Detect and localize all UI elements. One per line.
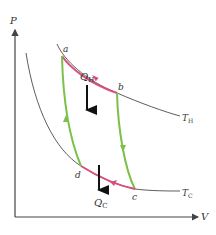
isotherm-th-label: TH (182, 113, 193, 124)
process-b-c (117, 93, 135, 189)
process-a-b (62, 56, 117, 93)
qc-label: QC (94, 197, 108, 210)
isotherm-tc-label: TC (182, 188, 193, 199)
point-a-label: a (63, 44, 68, 54)
y-axis-label: P (9, 15, 17, 26)
point-c-label: c (132, 192, 137, 202)
point-d-label: d (75, 170, 81, 180)
qh-label: QH (80, 71, 94, 84)
point-b-label: b (118, 82, 124, 92)
x-axis-label: V (201, 211, 210, 222)
arrow-b-c-icon (120, 145, 126, 152)
isotherm-tc-line (26, 53, 180, 191)
carnot-diagram: P V a b c d TH TC QH QC (0, 0, 216, 235)
